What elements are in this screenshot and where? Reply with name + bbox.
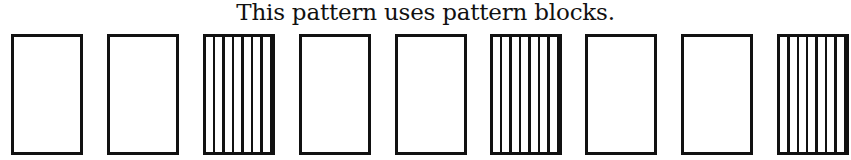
pattern-block-plain	[299, 34, 371, 155]
pattern-block-striped	[777, 34, 849, 155]
pattern-block-plain	[681, 34, 753, 155]
pattern-block-plain	[107, 34, 179, 155]
pattern-block-striped	[203, 34, 275, 155]
pattern-block-plain	[395, 34, 467, 155]
pattern-row	[0, 0, 851, 160]
pattern-block-plain	[585, 34, 657, 155]
pattern-block-plain	[11, 34, 83, 155]
pattern-block-striped	[490, 34, 562, 155]
